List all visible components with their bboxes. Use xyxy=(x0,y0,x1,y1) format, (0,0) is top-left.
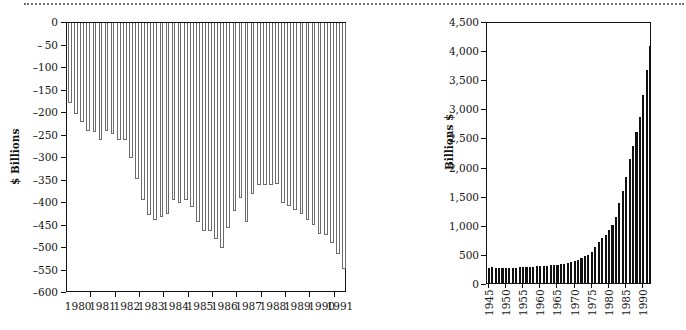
bar xyxy=(208,23,212,231)
bar xyxy=(245,23,249,222)
y-tick xyxy=(481,109,486,110)
x-tick-label: 1975 xyxy=(587,289,598,316)
y-tick-label: 500 xyxy=(436,250,479,261)
bar xyxy=(233,23,237,211)
x-tick xyxy=(188,292,189,297)
bar xyxy=(608,230,610,283)
x-tick-label: 1990 xyxy=(638,289,649,316)
bar xyxy=(336,23,340,254)
bar xyxy=(512,268,514,283)
y-tick xyxy=(481,51,486,52)
bar xyxy=(508,268,510,283)
x-tick xyxy=(163,292,164,297)
x-tick xyxy=(642,284,643,288)
y-tick-label: –600 xyxy=(14,287,58,298)
bar xyxy=(312,23,316,225)
bar xyxy=(263,23,267,185)
bar xyxy=(591,252,593,283)
bar xyxy=(226,23,230,228)
y-tick xyxy=(61,247,66,248)
x-tick-label: 1985 xyxy=(621,289,632,316)
bar xyxy=(214,23,218,239)
bar xyxy=(287,23,291,206)
y-tick xyxy=(481,255,486,256)
bar xyxy=(615,217,617,283)
right-plot-area xyxy=(486,22,651,284)
bar xyxy=(141,23,145,200)
y-tick xyxy=(61,90,66,91)
bar xyxy=(220,23,224,248)
x-tick xyxy=(488,284,489,288)
y-tick-label: 2,000 xyxy=(436,163,479,174)
y-tick-label: –550 xyxy=(14,265,58,276)
y-tick xyxy=(61,270,66,271)
bar xyxy=(546,266,548,283)
bar xyxy=(601,238,603,283)
bar xyxy=(522,267,524,283)
x-tick-label: 1955 xyxy=(518,289,529,316)
x-tick xyxy=(334,292,335,297)
bar xyxy=(539,266,541,283)
x-tick-label: 1945 xyxy=(484,289,495,316)
bar xyxy=(324,23,328,235)
bar xyxy=(646,70,648,283)
bar xyxy=(251,23,255,194)
y-tick-label: 3,000 xyxy=(436,104,479,115)
bar xyxy=(160,23,164,217)
bar xyxy=(99,23,103,140)
bar xyxy=(147,23,151,215)
right-bar-series xyxy=(487,23,650,283)
bar xyxy=(293,23,297,210)
x-tick-label: 1960 xyxy=(535,289,546,316)
bar xyxy=(129,23,133,158)
x-tick xyxy=(522,284,523,288)
bar xyxy=(536,266,538,283)
y-tick xyxy=(61,67,66,68)
bar xyxy=(330,23,334,243)
x-tick-label: 1965 xyxy=(552,289,563,316)
bar xyxy=(306,23,310,220)
y-tick-label: 3,500 xyxy=(436,75,479,86)
y-tick-label: 1,500 xyxy=(436,192,479,203)
bar xyxy=(498,268,500,283)
bar xyxy=(505,268,507,283)
bar xyxy=(598,242,600,283)
figure-page: $ Billions 0– 50–100–150–200–250–300–350… xyxy=(0,0,686,330)
y-tick xyxy=(61,292,66,293)
y-tick xyxy=(61,180,66,181)
y-tick xyxy=(481,80,486,81)
bar xyxy=(587,255,589,283)
y-tick-label: –450 xyxy=(14,220,58,231)
bar xyxy=(580,258,582,283)
y-tick xyxy=(481,284,486,285)
bar xyxy=(543,266,545,283)
bar xyxy=(642,95,644,283)
bar xyxy=(190,23,194,207)
bar xyxy=(584,256,586,283)
bar xyxy=(574,261,576,283)
y-tick-label: –400 xyxy=(14,197,58,208)
bar xyxy=(529,267,531,283)
bar xyxy=(618,203,620,283)
x-tick xyxy=(608,284,609,288)
y-tick-label: – 50 xyxy=(14,40,58,51)
bar xyxy=(269,23,273,185)
x-tick-label: 1970 xyxy=(570,289,581,316)
y-tick-label: –500 xyxy=(14,242,58,253)
y-tick xyxy=(481,138,486,139)
bar xyxy=(556,265,558,283)
bar xyxy=(629,159,631,283)
bar xyxy=(123,23,127,140)
bar xyxy=(632,146,634,283)
bar xyxy=(488,268,490,283)
bar xyxy=(550,265,552,283)
y-tick-label: 0 xyxy=(14,17,58,28)
bar xyxy=(501,268,503,283)
y-tick-label: 4,500 xyxy=(436,17,479,28)
bar xyxy=(567,263,569,283)
y-tick-label: –100 xyxy=(14,62,58,73)
bar xyxy=(560,264,562,283)
bar xyxy=(184,23,188,200)
bar xyxy=(594,247,596,283)
y-tick-label: 1,000 xyxy=(436,221,479,232)
